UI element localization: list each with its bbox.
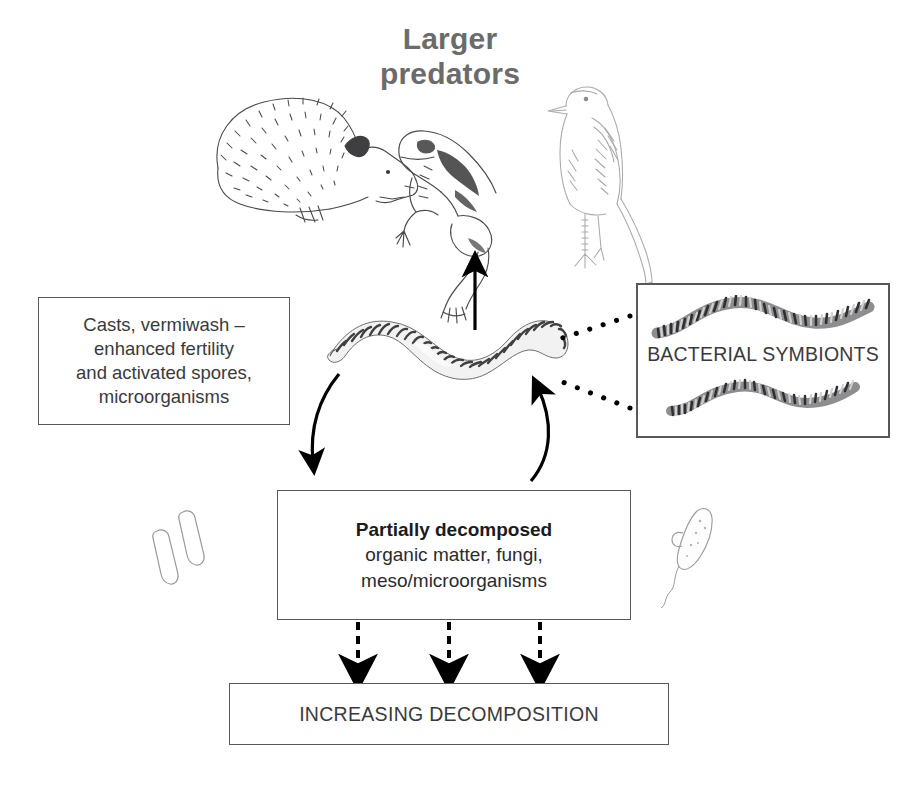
casts-line-4: microorganisms — [39, 385, 289, 409]
casts-line-1: Casts, vermiwash – — [39, 313, 289, 337]
bacterial-symbionts-label: BACTERIAL SYMBIONTS — [638, 343, 888, 366]
partially-decomposed-heading: Partially decomposed — [278, 517, 630, 542]
bacteria-filament-bottom-icon — [663, 377, 863, 423]
partially-decomposed-line-2: meso/microorganisms — [278, 568, 630, 593]
dotted-symbionts-to-worm-upper — [556, 316, 630, 340]
bacterial-symbionts-box: BACTERIAL SYMBIONTS — [636, 283, 890, 438]
casts-line-2: enhanced fertility — [39, 337, 289, 361]
hedgehog-icon — [217, 98, 418, 222]
page-title-line-2: predators — [300, 57, 600, 92]
decomposition-diagram: Larger predators Casts, vermiwash – enha… — [0, 0, 911, 791]
casts-line-3: and activated spores, — [39, 361, 289, 385]
arrow-decomposed-to-worm — [531, 388, 548, 481]
increasing-decomposition-box: INCREASING DECOMPOSITION — [229, 683, 669, 745]
partially-decomposed-line-1: organic matter, fungi, — [278, 542, 630, 567]
arrow-worm-to-decomposed — [312, 374, 339, 462]
bacteria-filament-top-icon — [649, 295, 877, 343]
rod-bacteria-icon — [153, 511, 204, 584]
casts-vermiwash-box: Casts, vermiwash – enhanced fertility an… — [38, 297, 290, 425]
casts-vermiwash-text: Casts, vermiwash – enhanced fertility an… — [39, 313, 289, 409]
page-title: Larger predators — [300, 22, 600, 92]
frog-icon — [396, 131, 496, 323]
page-title-line-1: Larger — [300, 22, 600, 57]
increasing-decomposition-label: INCREASING DECOMPOSITION — [230, 703, 668, 726]
flagellate-protozoan-icon — [661, 509, 712, 608]
bacterial-symbionts-inner: BACTERIAL SYMBIONTS — [638, 285, 888, 436]
bird-icon — [548, 87, 652, 284]
earthworm-icon — [328, 321, 568, 380]
partially-decomposed-text: Partially decomposed organic matter, fun… — [278, 517, 630, 592]
dotted-symbionts-to-worm-lower — [552, 378, 630, 408]
partially-decomposed-box: Partially decomposed organic matter, fun… — [277, 490, 631, 620]
